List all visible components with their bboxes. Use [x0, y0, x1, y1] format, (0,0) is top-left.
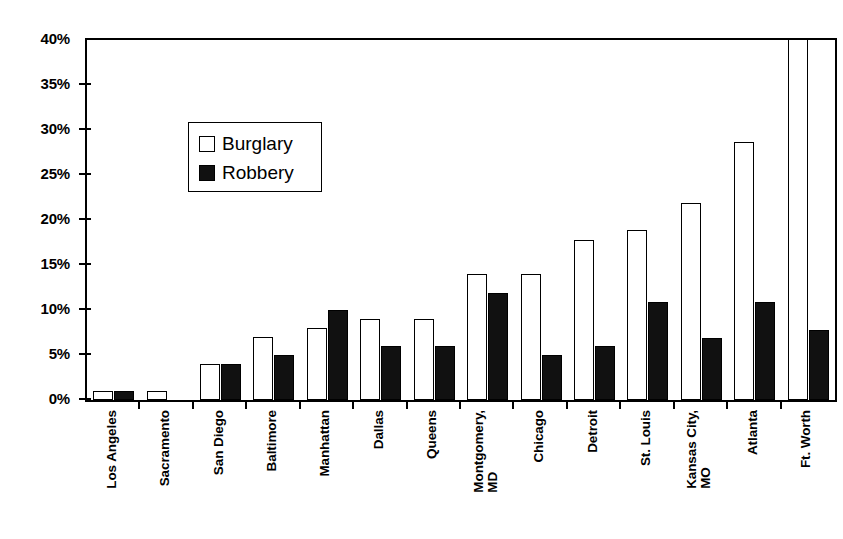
bar-robbery [381, 346, 401, 400]
x-tick-mark [726, 400, 728, 409]
plot-area [85, 38, 837, 402]
bar-robbery [702, 338, 722, 400]
x-axis-label-line: Los Angeles [104, 410, 119, 489]
bar-group [140, 40, 193, 400]
y-tick-label: 25% [8, 166, 70, 181]
bar-group [301, 40, 354, 400]
x-axis-label: Los Angeles [105, 410, 119, 489]
x-tick-mark [673, 400, 675, 409]
y-tick-label: 15% [8, 256, 70, 271]
x-tick-mark [245, 400, 247, 409]
x-axis-labels: Los AngelesSacramentoSan DiegoBaltimoreM… [85, 410, 833, 539]
bar-group [354, 40, 407, 400]
x-tick-mark [459, 400, 461, 409]
y-axis-labels: 40%35%30%25%20%15%10%5%0% [0, 0, 70, 539]
x-tick-mark [138, 400, 140, 409]
x-axis-ticks [85, 400, 833, 410]
bar-burglary [521, 274, 541, 400]
bar-group [461, 40, 514, 400]
y-tick-label: 10% [8, 301, 70, 316]
x-axis-label: Kansas City,MO [685, 410, 713, 489]
legend-label-burglary: Burglary [222, 134, 293, 153]
bar-group [408, 40, 461, 400]
bar-group [675, 40, 728, 400]
bar-group [621, 40, 674, 400]
x-axis-label: Manhattan [318, 410, 332, 477]
legend-item-burglary: Burglary [199, 129, 321, 158]
bar-robbery [274, 355, 294, 400]
bar-robbery [221, 364, 241, 400]
bar-robbery [435, 346, 455, 400]
x-axis-label-slot: San Diego [192, 410, 245, 539]
x-axis-label-line: Ft. Worth [798, 410, 813, 468]
x-axis-label: Atlanta [746, 410, 760, 455]
legend-swatch-burglary-icon [199, 136, 215, 152]
x-axis-label-line: St. Louis [638, 410, 653, 466]
bar-burglary [788, 38, 808, 400]
x-axis-label-line: Manhattan [317, 410, 332, 477]
x-axis-label: Sacramento [158, 410, 172, 486]
y-tick-label: 5% [8, 346, 70, 361]
x-tick-mark [406, 400, 408, 409]
x-axis-label-slot: Baltimore [245, 410, 298, 539]
x-axis-label: St. Louis [639, 410, 653, 466]
x-axis-label-slot: Sacramento [138, 410, 191, 539]
x-axis-label: Chicago [532, 410, 546, 463]
x-axis-label-line: Detroit [585, 410, 600, 453]
bar-burglary [734, 142, 754, 400]
x-axis-label-line: Dallas [371, 410, 386, 449]
bar-robbery [488, 293, 508, 400]
bar-group [247, 40, 300, 400]
x-axis-label-slot: Dallas [352, 410, 405, 539]
legend-swatch-robbery-icon [199, 165, 215, 181]
bar-burglary [307, 328, 327, 400]
bar-robbery [648, 302, 668, 400]
bar-robbery [328, 310, 348, 400]
bar-robbery [542, 355, 562, 400]
x-axis-label-slot: Queens [406, 410, 459, 539]
x-axis-label: Detroit [586, 410, 600, 453]
x-tick-mark [299, 400, 301, 409]
x-axis-label-line: Queens [424, 410, 439, 459]
x-axis-label: San Diego [212, 410, 226, 475]
y-tick-label: 35% [8, 76, 70, 91]
x-axis-label: Queens [425, 410, 439, 459]
bar-robbery [755, 302, 775, 400]
bar-group [194, 40, 247, 400]
bar-chart: 40%35%30%25%20%15%10%5%0% Burglary Robbe… [0, 0, 843, 539]
legend-label-robbery: Robbery [222, 163, 294, 182]
x-axis-label: Dallas [372, 410, 386, 449]
bar-robbery [809, 330, 829, 400]
bar-burglary [147, 391, 167, 400]
bar-burglary [414, 319, 434, 400]
x-axis-label-line: Atlanta [745, 410, 760, 455]
x-axis-label-slot: Los Angeles [85, 410, 138, 539]
x-axis-label-slot: Ft. Worth [780, 410, 833, 539]
bar-robbery [595, 346, 615, 400]
x-tick-mark [780, 400, 782, 409]
x-tick-mark [566, 400, 568, 409]
x-axis-label-line: Sacramento [157, 410, 172, 486]
x-axis-label-line: Chicago [531, 410, 546, 463]
bar-burglary [681, 203, 701, 400]
y-tick-label: 30% [8, 121, 70, 136]
bar-group [782, 40, 835, 400]
x-axis-label-slot: Atlanta [726, 410, 779, 539]
x-tick-mark [512, 400, 514, 409]
x-axis-label-slot: Kansas City,MO [673, 410, 726, 539]
x-axis-label: Baltimore [265, 410, 279, 471]
y-tick-label: 0% [8, 391, 70, 406]
bar-group [728, 40, 781, 400]
x-axis-label-slot: Detroit [566, 410, 619, 539]
chart-legend: Burglary Robbery [188, 122, 322, 192]
x-axis-label-slot: Manhattan [299, 410, 352, 539]
x-axis-label-line: Montgomery, [471, 410, 486, 493]
bar-burglary [574, 240, 594, 400]
x-axis-label-line: Baltimore [264, 410, 279, 471]
x-tick-mark [619, 400, 621, 409]
x-axis-label-slot: Chicago [512, 410, 565, 539]
x-axis-label-line: MO [699, 410, 713, 489]
bar-burglary [360, 319, 380, 400]
x-axis-label-slot: St. Louis [619, 410, 672, 539]
bar-burglary [467, 274, 487, 400]
